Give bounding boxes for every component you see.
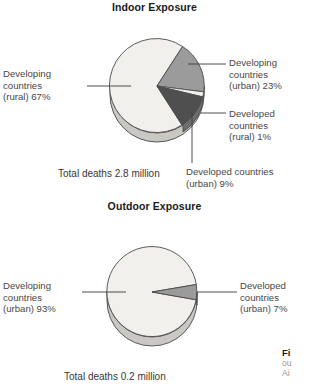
indoor-callout-urban9: Developed countries (urban) 9% <box>186 166 273 189</box>
indoor-callout-rural67: Developing countries (rural) 67% <box>3 68 51 103</box>
indoor-callout-rural67-line2: countries <box>3 80 51 92</box>
outdoor-callout-urban93-line1: Developing <box>3 280 56 292</box>
indoor-callout-rural1-line3: (rural) 1% <box>229 131 275 143</box>
outdoor-pie <box>82 247 237 346</box>
outdoor-callout-urban93-line3: (urban) 93% <box>3 303 56 315</box>
indoor-total-deaths: Total deaths 2.8 million <box>58 168 160 179</box>
figure-caption-line1: ou <box>282 358 308 368</box>
figure-two-pie-charts: Indoor Exposure Outdoor Exposure <box>0 0 309 390</box>
indoor-callout-urban9-line2: (urban) 9% <box>186 178 273 190</box>
figure-caption-fragment: Fi ou Ai <box>282 347 308 378</box>
indoor-callout-rural1-line2: countries <box>229 120 275 132</box>
outdoor-callout-urban7-line3: (urban) 7% <box>240 303 287 315</box>
figure-caption-line2: Ai <box>282 368 308 378</box>
outdoor-callout-urban93-line2: countries <box>3 292 56 304</box>
indoor-callout-urban23-line2: countries <box>229 69 282 81</box>
indoor-callout-rural1-line1: Developed <box>229 108 275 120</box>
figure-caption-label: Fi <box>282 347 308 358</box>
indoor-callout-urban9-line1: Developed countries <box>186 166 273 178</box>
indoor-callout-urban23-line3: (urban) 23% <box>229 80 282 92</box>
outdoor-callout-urban93: Developing countries (urban) 93% <box>3 280 56 315</box>
indoor-callout-rural67-line3: (rural) 67% <box>3 91 51 103</box>
outdoor-callout-urban7-line1: Developed <box>240 280 287 292</box>
indoor-callout-urban23-line1: Developing <box>229 57 282 69</box>
indoor-callout-rural1: Developed countries (rural) 1% <box>229 108 275 143</box>
indoor-callout-rural67-line1: Developing <box>3 68 51 80</box>
outdoor-total-deaths: Total deaths 0.2 million <box>64 371 166 382</box>
outdoor-callout-urban7-line2: countries <box>240 292 287 304</box>
indoor-callout-urban23: Developing countries (urban) 23% <box>229 57 282 92</box>
indoor-pie <box>87 39 226 163</box>
outdoor-callout-urban7: Developed countries (urban) 7% <box>240 280 287 315</box>
